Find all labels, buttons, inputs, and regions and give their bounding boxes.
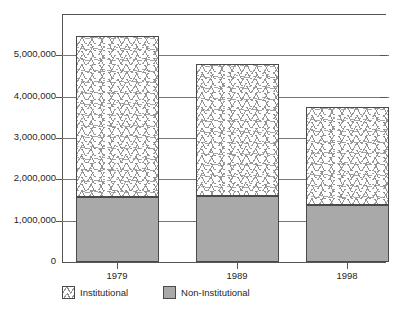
chart-legend: Institutional Non-Institutional — [62, 286, 250, 299]
gridline — [279, 179, 306, 180]
x-axis-tick-mark — [237, 262, 238, 269]
bar-segment-non-institutional[interactable] — [306, 205, 389, 262]
y-axis-tick-label: 3,000,000 — [4, 132, 56, 142]
bar-segment-institutional[interactable] — [76, 36, 159, 196]
gridline — [279, 97, 306, 98]
gridline — [62, 97, 76, 98]
y-axis-tick-label: 4,000,000 — [4, 91, 56, 101]
gridline — [62, 138, 76, 139]
bar-segment-non-institutional[interactable] — [76, 197, 159, 262]
gridline — [62, 55, 76, 56]
legend-item-institutional[interactable]: Institutional — [62, 286, 128, 299]
gridline — [159, 221, 196, 222]
gridline — [62, 179, 76, 180]
x-axis-tick-mark — [117, 262, 118, 269]
gridline — [279, 138, 306, 139]
bar-segment-non-institutional[interactable] — [196, 196, 279, 262]
bar-segment-institutional[interactable] — [306, 107, 389, 205]
x-axis-tick-label: 1998 — [336, 270, 357, 281]
gridline — [159, 138, 196, 139]
gridline — [279, 55, 306, 56]
legend-item-non-institutional[interactable]: Non-Institutional — [163, 286, 250, 299]
gridline — [159, 55, 196, 56]
non-institutional-swatch-icon — [163, 286, 176, 299]
gridline — [62, 221, 76, 222]
gridline — [279, 221, 306, 222]
institutional-swatch-icon — [62, 286, 75, 299]
x-axis-tick-label: 1989 — [226, 270, 247, 281]
stacked-bar-chart: 01,000,0002,000,0003,000,0004,000,0005,0… — [0, 0, 396, 313]
bar-segment-institutional[interactable] — [196, 64, 279, 196]
y-axis-tick-label: 2,000,000 — [4, 173, 56, 183]
gridline — [159, 179, 196, 180]
y-axis-tick-label: 5,000,000 — [4, 49, 56, 59]
x-axis-tick-label: 1979 — [106, 270, 127, 281]
y-axis-tick-label: 0 — [4, 256, 56, 266]
legend-label-non-institutional: Non-Institutional — [181, 287, 250, 298]
x-axis-tick-mark — [347, 262, 348, 269]
y-axis-tick-label: 1,000,000 — [4, 215, 56, 225]
legend-label-institutional: Institutional — [80, 287, 128, 298]
gridline — [159, 97, 196, 98]
